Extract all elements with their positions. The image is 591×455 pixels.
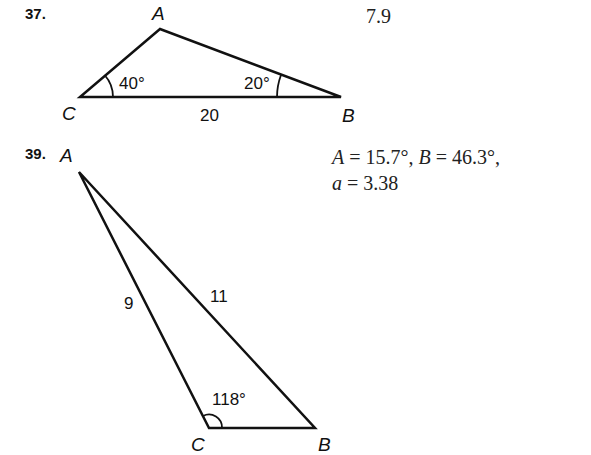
vertex-label-C: C <box>191 434 205 455</box>
angle-label-C: 40° <box>119 74 145 93</box>
triangle-39: A C B 9 11 118° <box>59 145 331 455</box>
triangle-37: A C B 40° 20° 20 <box>62 3 355 126</box>
side-label-AB: 11 <box>210 287 228 306</box>
vertex-label-B: B <box>342 105 355 126</box>
angle-arc-C <box>105 75 113 97</box>
diagram-canvas: A C B 40° 20° 20 A C B 9 11 118° <box>0 0 591 455</box>
angle-label-B: 20° <box>244 74 270 93</box>
angle-label-C: 118° <box>212 390 246 409</box>
side-label-AC: 9 <box>124 294 133 313</box>
angle-arc-B <box>277 75 281 97</box>
vertex-label-A: A <box>151 3 165 24</box>
vertex-label-B: B <box>318 434 331 455</box>
side-label-CB: 20 <box>200 106 219 125</box>
vertex-label-A: A <box>59 145 73 166</box>
vertex-label-C: C <box>62 103 76 124</box>
